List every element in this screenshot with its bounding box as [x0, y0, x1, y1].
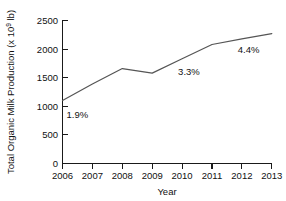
annotation-growth-2006: 1.9% — [67, 109, 89, 120]
y-tick-label-1500: 1500 — [37, 72, 58, 83]
y-tick-label-2500: 2500 — [37, 15, 58, 26]
x-tick-label-2009: 2009 — [142, 170, 163, 181]
x-tick-label-2013: 2013 — [261, 170, 282, 181]
annotation-growth-2010: 3.3% — [178, 66, 200, 77]
y-tick-label-0: 0 — [53, 158, 58, 169]
y-axis-title-tail: lb) — [5, 10, 16, 23]
x-tick-label-2011: 2011 — [202, 170, 222, 181]
y-axis-title-main: Total Organic Milk Production (x 10 — [5, 27, 16, 174]
y-axis-title: Total Organic Milk Production (x 109 lb) — [5, 10, 16, 174]
chart-figure: 0 500 1000 1500 2000 2500 2006 2007 2008… — [0, 0, 286, 201]
y-axis-title-group: Total Organic Milk Production (x 109 lb) — [5, 10, 16, 174]
x-tick-label-2012: 2012 — [231, 170, 252, 181]
x-tick-label-2008: 2008 — [112, 170, 133, 181]
y-tick-label-1000: 1000 — [37, 101, 58, 112]
annotation-growth-2013: 4.4% — [238, 44, 260, 55]
line-chart-canvas: 0 500 1000 1500 2000 2500 2006 2007 2008… — [0, 0, 286, 201]
x-axis-title: Year — [157, 186, 176, 197]
x-tick-label-2007: 2007 — [82, 170, 103, 181]
y-tick-label-500: 500 — [42, 129, 58, 140]
x-tick-label-2010: 2010 — [172, 170, 193, 181]
x-tick-label-2006: 2006 — [52, 170, 73, 181]
y-tick-label-2000: 2000 — [37, 44, 58, 55]
